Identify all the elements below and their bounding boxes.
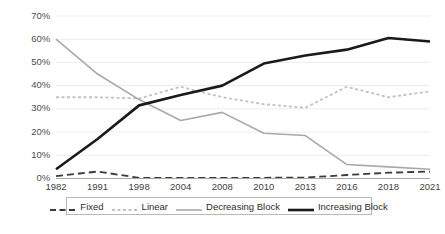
legend-label: Decreasing Block [206, 201, 280, 212]
y-axis-tick: 50% [8, 56, 50, 67]
legend-swatch-icon [112, 201, 138, 211]
x-axis-tick: 2021 [406, 181, 445, 192]
y-axis-tick: 70% [8, 10, 50, 21]
series-line-increasing-block [56, 38, 430, 169]
legend-item-increasing-block[interactable]: Increasing Block [288, 201, 388, 212]
legend-swatch-icon [288, 201, 314, 211]
legend-item-fixed[interactable]: Fixed [50, 201, 103, 212]
y-axis-tick: 60% [8, 33, 50, 44]
legend-swatch-icon [176, 201, 202, 211]
y-axis-tick: 40% [8, 79, 50, 90]
legend-label: Fixed [80, 201, 103, 212]
legend-item-linear[interactable]: Linear [112, 201, 168, 212]
series-line-linear [56, 87, 430, 108]
legend-label: Increasing Block [318, 201, 388, 212]
y-axis-tick: 10% [8, 149, 50, 160]
series-lines [56, 38, 430, 178]
legend-item-decreasing-block[interactable]: Decreasing Block [176, 201, 280, 212]
series-line-decreasing-block [56, 39, 430, 169]
legend-label: Linear [142, 201, 168, 212]
y-axis-tick: 20% [8, 126, 50, 137]
chart-legend: FixedLinearDecreasing BlockIncreasing Bl… [66, 197, 372, 215]
y-axis-tick: 30% [8, 102, 50, 113]
series-line-fixed [56, 172, 430, 178]
legend-swatch-icon [50, 201, 76, 211]
